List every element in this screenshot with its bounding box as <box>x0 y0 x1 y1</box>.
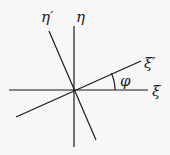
eta-prime-axis <box>49 31 96 140</box>
eta-prime-label: η′ <box>41 8 54 26</box>
phi-label: φ <box>120 72 131 90</box>
rotation-diagram: ξ η ξ′ η′ φ <box>0 0 170 155</box>
xi-prime-label: ξ′ <box>144 54 156 72</box>
angle-arc <box>111 73 115 90</box>
xi-label: ξ <box>152 82 161 100</box>
eta-label: η <box>76 8 85 26</box>
